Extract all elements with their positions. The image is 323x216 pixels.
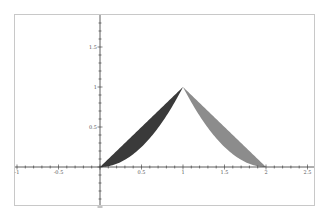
x-tick-label: 0.5 xyxy=(138,169,146,175)
x-tick-label: 2 xyxy=(264,169,267,175)
x-tick-label: -0.5 xyxy=(54,169,64,175)
x-tick-label: -1 xyxy=(15,169,20,175)
chart-canvas: -1-0.50.511.522.50.511.5 xyxy=(0,0,323,216)
y-tick-label: 1.5 xyxy=(89,44,97,50)
x-tick-label: 1.5 xyxy=(221,169,229,175)
y-tick-label: 0.5 xyxy=(89,124,97,130)
x-tick-label: 1 xyxy=(181,169,184,175)
y-tick-label: 1 xyxy=(94,84,97,90)
x-tick-label: 2.5 xyxy=(304,169,312,175)
